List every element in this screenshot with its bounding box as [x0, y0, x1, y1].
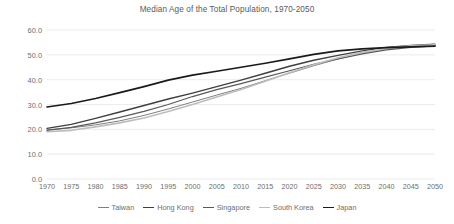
legend-item-taiwan[interactable]: Taiwan [98, 203, 135, 212]
x-axis-tick-label: 2020 [282, 182, 298, 191]
x-axis-tick-label: 2015 [257, 182, 273, 191]
x-axis-tick-label: 2030 [330, 182, 346, 191]
x-axis: 1970197519801985199019952000200520102015… [47, 182, 435, 194]
x-axis-tick-label: 2035 [354, 182, 370, 191]
y-axis-tick-label: 0.0 [0, 175, 42, 184]
legend-label-japan: Japan [337, 203, 357, 212]
y-axis: 0.010.020.030.040.050.060.0 [0, 30, 42, 179]
legend-item-singapore[interactable]: Singapore [203, 203, 250, 212]
chart-container: Median Age of the Total Population, 1970… [0, 0, 454, 224]
x-axis-tick-label: 2050 [427, 182, 443, 191]
series-line-japan [47, 46, 435, 107]
legend-swatch-taiwan [98, 207, 109, 208]
x-axis-tick-label: 2045 [403, 182, 419, 191]
legend-swatch-south-korea [259, 207, 270, 208]
y-axis-tick-label: 30.0 [0, 100, 42, 109]
y-axis-tick-label: 60.0 [0, 26, 42, 35]
legend-label-taiwan: Taiwan [112, 203, 135, 212]
x-axis-tick-label: 1985 [112, 182, 128, 191]
y-axis-tick-label: 50.0 [0, 50, 42, 59]
legend-label-south-korea: South Korea [273, 203, 314, 212]
x-axis-tick-label: 1980 [88, 182, 104, 191]
x-axis-tick-label: 1995 [160, 182, 176, 191]
x-axis-tick-label: 2000 [185, 182, 201, 191]
legend-swatch-hong-kong [143, 207, 154, 208]
x-axis-tick-label: 2040 [379, 182, 395, 191]
legend-label-hong-kong: Hong Kong [157, 203, 194, 212]
plot-lines [47, 30, 435, 179]
x-axis-tick-label: 2005 [209, 182, 225, 191]
legend-swatch-singapore [203, 207, 214, 208]
chart-legend: TaiwanHong KongSingaporeSouth KoreaJapan [0, 203, 454, 212]
legend-swatch-japan [323, 207, 334, 208]
x-axis-tick-label: 1970 [39, 182, 55, 191]
x-axis-tick-label: 2025 [306, 182, 322, 191]
chart-title: Median Age of the Total Population, 1970… [0, 5, 454, 14]
y-axis-tick-label: 10.0 [0, 150, 42, 159]
series-line-taiwan [47, 45, 435, 129]
plot-area [47, 30, 435, 179]
legend-item-hong-kong[interactable]: Hong Kong [143, 203, 194, 212]
y-axis-tick-label: 20.0 [0, 125, 42, 134]
legend-item-south-korea[interactable]: South Korea [259, 203, 314, 212]
x-axis-tick-label: 1975 [63, 182, 79, 191]
x-axis-tick-label: 1990 [136, 182, 152, 191]
x-axis-tick-label: 2010 [233, 182, 249, 191]
legend-item-japan[interactable]: Japan [323, 203, 357, 212]
y-axis-tick-label: 40.0 [0, 75, 42, 84]
series-line-hong-kong [47, 44, 435, 128]
legend-label-singapore: Singapore [217, 203, 250, 212]
